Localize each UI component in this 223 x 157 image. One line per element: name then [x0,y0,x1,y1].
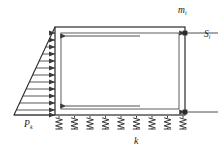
spring [148,116,155,129]
settlement-subscript: i [209,34,211,40]
spring [86,116,93,129]
spring [133,116,140,129]
dimension-leader-group [183,31,218,115]
spring [164,116,171,129]
spring-stiffness-label: k [134,136,138,146]
triangular-load-group [14,27,55,115]
spring [102,116,109,129]
internal-arrow-group [66,36,140,106]
structural-diagram: mi Si Pk k [0,0,223,157]
mass-symbol: m [178,5,185,15]
top-right-node-marker [183,31,188,36]
spring-group [55,116,186,129]
bottom-right-node-marker [183,110,188,115]
spring-stiffness-symbol: k [134,135,138,146]
inner-frame [61,33,179,109]
pressure-label: Pk [24,120,32,130]
spring [71,116,78,129]
mass-subscript: i [185,10,187,16]
load-triangle-outline [14,27,55,115]
mass-label: mi [178,6,187,16]
spring [117,116,124,129]
outer-frame [55,27,185,115]
settlement-label: Si [204,30,210,40]
spring [55,116,62,129]
spring [179,116,186,129]
frame-group [55,27,185,115]
pressure-symbol: P [24,119,30,129]
diagram-canvas [0,0,223,157]
load-arrow-set [14,33,55,115]
pressure-subscript: k [30,124,33,130]
